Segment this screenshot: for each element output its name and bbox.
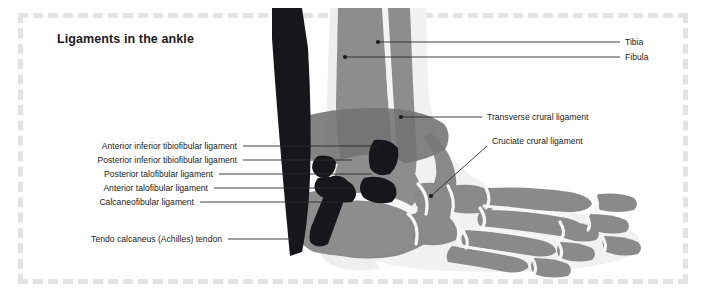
page-title: Ligaments in the ankle <box>57 32 194 46</box>
label-fibula: Fibula <box>625 53 648 62</box>
achilles-tendon <box>272 8 311 256</box>
label-tibia: Tibia <box>625 38 643 47</box>
diagram-page: Ligaments in the ankle <box>0 0 722 296</box>
label-tendo-calcaneus-achilles-tendon: Tendo calcaneus (Achilles) tendon <box>0 235 222 244</box>
label-anterior-inferior-tibiofibular-ligament: Anterior inferior tibiofibular ligament <box>0 142 237 151</box>
label-transverse-crural-ligament: Transverse crural ligament <box>487 113 588 122</box>
ankle-anatomy-illustration <box>230 8 650 293</box>
label-anterior-talofibular-ligament: Anterior talofibular ligament <box>0 184 208 193</box>
label-posterior-talofibular-ligament: Posterior talofibular ligament <box>0 170 213 179</box>
label-calcaneofibular-ligament: Calcaneofibular ligament <box>0 198 194 207</box>
label-posterior-inferior-tibiofibular-ligament: Posterior inferior tibiofibular ligament <box>0 156 237 165</box>
label-cruciate-crural-ligament: Cruciate crural ligament <box>492 137 583 146</box>
